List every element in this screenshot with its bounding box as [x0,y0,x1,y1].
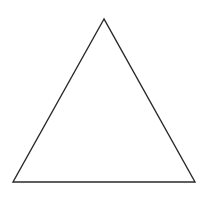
diagram-canvas [0,0,209,218]
triangle-figure [0,0,209,218]
triangle [13,19,195,182]
